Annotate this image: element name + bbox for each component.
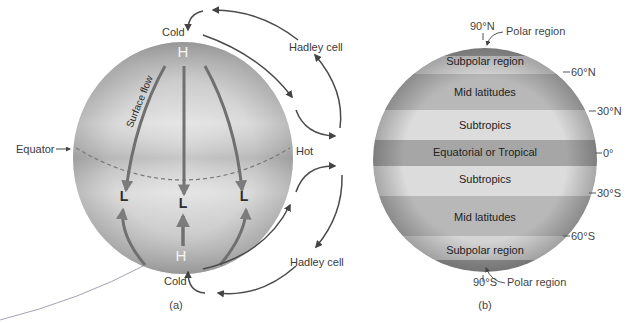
band-subtropics-south: Subtropics <box>459 174 511 185</box>
hadley-cell-label-top: Hadley cell <box>289 42 343 53</box>
hadley-cell-label-bottom: Hadley cell <box>290 257 344 268</box>
band-subtropics-north: Subtropics <box>459 120 511 131</box>
cold-label-bottom: Cold <box>164 276 187 287</box>
latitude-60s: 60°S <box>571 231 595 242</box>
panel-a-label: (a) <box>169 299 182 311</box>
equator-label: Equator <box>16 144 55 155</box>
latitude-60n: 60°N <box>571 67 596 78</box>
hot-label: Hot <box>296 146 313 157</box>
latitude-90s: 90°S <box>473 277 497 288</box>
polar-region-label-top: Polar region <box>506 26 565 37</box>
latitude-90n: 90°N <box>470 21 495 32</box>
globe-a <box>73 42 293 274</box>
band-mid-latitudes-north: Mid latitudes <box>454 87 516 98</box>
low-pressure-right: L <box>240 189 249 203</box>
high-pressure-bottom: H <box>176 248 187 263</box>
low-pressure-center: L <box>179 196 188 210</box>
cold-label-top: Cold <box>162 27 185 38</box>
band-subpolar-north: Subpolar region <box>446 56 524 67</box>
high-pressure-top: H <box>178 44 189 59</box>
low-pressure-left: L <box>120 189 129 203</box>
latitude-30s: 30°S <box>597 188 621 199</box>
latitude-30n: 30°N <box>597 106 622 117</box>
polar-region-pointer-top <box>487 32 503 45</box>
band-mid-latitudes-south: Mid latitudes <box>454 212 516 223</box>
panel-b-label: (b) <box>478 299 491 311</box>
pen-stroke <box>0 265 145 320</box>
band-subpolar-south: Subpolar region <box>446 245 524 256</box>
polar-region-label-bottom: Polar region <box>507 277 566 288</box>
band-equatorial: Equatorial or Tropical <box>433 147 537 158</box>
latitude-0: 0° <box>603 148 614 159</box>
